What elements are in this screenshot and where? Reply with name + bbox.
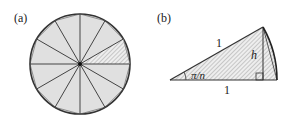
side-top-label: 1 bbox=[216, 37, 222, 49]
panel-b-label: (b) bbox=[157, 12, 171, 24]
diagram-canvas bbox=[0, 0, 292, 118]
height-label: h bbox=[251, 49, 257, 61]
angle-label: π/n bbox=[191, 70, 205, 81]
side-bottom-label: 1 bbox=[224, 84, 230, 96]
panel-a-label: (a) bbox=[14, 12, 27, 24]
figure-b-triangle bbox=[170, 27, 277, 80]
figure-a-circle bbox=[30, 14, 130, 114]
